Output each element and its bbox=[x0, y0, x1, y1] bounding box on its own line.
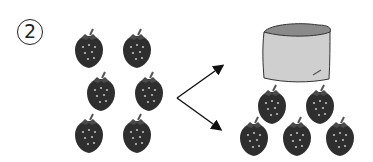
strawberry-icon bbox=[123, 114, 151, 153]
right-strawberry-group bbox=[240, 85, 354, 156]
strawberry-icon bbox=[75, 114, 103, 153]
strawberry-icon bbox=[87, 72, 115, 111]
cup-icon bbox=[263, 24, 331, 82]
strawberry-icon bbox=[258, 85, 286, 124]
diagram-canvas bbox=[0, 0, 373, 162]
strawberry-icon bbox=[135, 72, 163, 111]
arrow-up-right-icon bbox=[177, 66, 222, 98]
strawberry-icon bbox=[123, 29, 151, 68]
strawberry-icon bbox=[326, 117, 354, 156]
strawberry-icon bbox=[306, 85, 334, 124]
strawberry-icon bbox=[240, 117, 268, 156]
left-strawberry-group bbox=[75, 29, 163, 153]
strawberry-icon bbox=[75, 29, 103, 68]
strawberry-icon bbox=[283, 117, 311, 156]
arrow-down-right-icon bbox=[177, 98, 220, 129]
split-arrows bbox=[177, 66, 222, 129]
